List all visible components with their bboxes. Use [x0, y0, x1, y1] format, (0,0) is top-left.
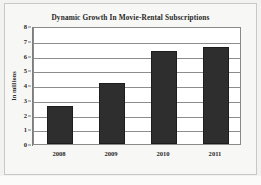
y-axis-tick-label: 6	[24, 53, 27, 60]
y-axis-tick-label: 2	[24, 112, 27, 119]
y-axis-tick-mark	[28, 56, 31, 57]
y-axis-tick-mark	[28, 71, 31, 72]
y-axis-tick-mark	[28, 115, 31, 116]
y-axis-tick-label: 1	[24, 127, 27, 134]
x-axis-tick-label: 2011	[209, 150, 222, 157]
y-axis-tick-label: 8	[24, 24, 27, 31]
y-axis-tick-group: 012345678	[0, 27, 31, 145]
bar-2010	[151, 51, 177, 144]
y-axis-tick-label: 4	[24, 83, 27, 90]
y-axis-tick-mark	[28, 100, 31, 101]
y-axis-tick-label: 7	[24, 38, 27, 45]
chart-title: Dynamic Growth In Movie-Rental Subscript…	[0, 13, 261, 22]
y-axis-tick-mark	[28, 86, 31, 87]
y-axis-tick-mark	[28, 145, 31, 146]
y-axis-tick-mark	[28, 130, 31, 131]
bar-2008	[47, 106, 73, 144]
y-axis-tick-mark	[28, 27, 31, 28]
x-axis-tick-label: 2010	[156, 150, 169, 157]
y-axis-tick-mark	[28, 41, 31, 42]
plot-area	[33, 27, 241, 145]
x-axis-tick-label: 2009	[104, 150, 117, 157]
chart-figure: Dynamic Growth In Movie-Rental Subscript…	[0, 0, 261, 185]
y-axis-tick-label: 5	[24, 68, 27, 75]
bar-2009	[99, 83, 125, 144]
y-axis-tick-label: 3	[24, 97, 27, 104]
x-axis-tick-group: 2008200920102011	[33, 150, 241, 162]
y-axis-tick-label: 0	[24, 142, 27, 149]
figure-bottom-margin	[0, 176, 261, 185]
bar-group	[34, 28, 240, 144]
bar-2011	[203, 47, 229, 144]
x-axis-tick-label: 2008	[52, 150, 65, 157]
